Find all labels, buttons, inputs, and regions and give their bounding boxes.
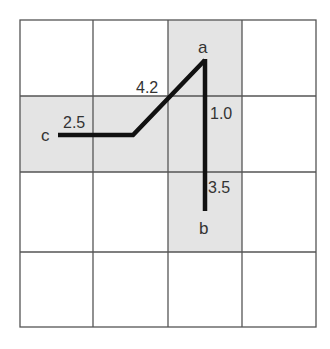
grid-diagram: a b c 2.5 4.2 1.0 3.5: [0, 0, 330, 349]
point-label-a: a: [198, 38, 208, 57]
grid-lines: [20, 20, 316, 327]
point-label-c: c: [41, 126, 50, 145]
segment-label-a-lower: 3.5: [208, 179, 230, 196]
segment-label-diagonal: 4.2: [136, 79, 158, 96]
segment-label-a-upper: 1.0: [210, 105, 232, 122]
point-label-b: b: [199, 219, 208, 238]
segment-label-c: 2.5: [63, 114, 85, 131]
